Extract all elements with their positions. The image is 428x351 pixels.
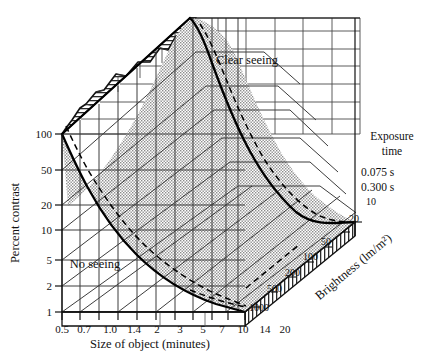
legend-title-line1: Exposure [370, 130, 413, 143]
z-tick-5: 500 [267, 283, 282, 294]
y-axis-ticks [55, 134, 62, 312]
x-axis-label: Size of object (minutes) [90, 337, 210, 351]
figure-root: 100 50 20 10 5 2 1 Percent contrast 0.5 … [0, 0, 428, 351]
z-tick-4: 200 [285, 267, 300, 278]
x-tick-1: 0.7 [77, 323, 91, 335]
x-tick-8: 10 [238, 323, 250, 335]
z-tick-3: 100 [303, 251, 318, 262]
x-tick-6: 5 [200, 323, 206, 335]
y-tick-3: 10 [41, 224, 53, 236]
y-axis-label: Percent contrast [8, 182, 22, 263]
x-tick-5: 3 [177, 323, 183, 335]
y-tick-6: 1 [47, 306, 53, 318]
y-tick-2: 20 [41, 199, 53, 211]
seeing-threshold-3d-chart: 100 50 20 10 5 2 1 Percent contrast 0.5 … [0, 0, 428, 351]
x-tick-0: 0.5 [55, 323, 69, 335]
region-label-no-seeing: No seeing [70, 257, 121, 271]
x-tick-7: 7 [219, 323, 225, 335]
x-tick-9: 14 [260, 323, 272, 335]
y-tick-5: 2 [47, 280, 53, 292]
z-tick-0: 10 [366, 196, 376, 207]
z-tick-2: 50 [321, 236, 331, 247]
y-tick-1: 50 [41, 164, 53, 176]
x-tick-4: 2 [154, 323, 160, 335]
x-tick-10: 20 [280, 323, 292, 335]
x-tick-2: 1.0 [103, 323, 117, 335]
y-tick-4: 5 [47, 254, 53, 266]
legend-entry-1: 0.300 s [361, 181, 395, 193]
legend-entry-0: 0.075 s [361, 166, 395, 178]
z-tick-1: 20 [349, 213, 359, 224]
legend: Exposure time 0.075 s 0.300 s [361, 130, 414, 193]
y-tick-0: 100 [36, 128, 53, 140]
region-label-clear-seeing: Clear seeing [216, 53, 279, 67]
x-tick-3: 1.4 [127, 323, 141, 335]
z-tick-6: 1000 [249, 302, 269, 313]
legend-title-line2: time [382, 145, 402, 157]
